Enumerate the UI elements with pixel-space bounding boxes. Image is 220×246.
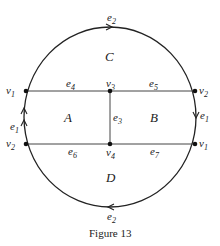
label-v2-left: v2 (6, 137, 15, 152)
vertex-v2-left (24, 142, 29, 147)
label-v4: v4 (106, 146, 115, 161)
label-e6: e6 (68, 145, 77, 160)
face-label-C: C (105, 49, 114, 64)
face-label-B: B (150, 110, 158, 125)
label-v2-right: v2 (199, 84, 208, 99)
label-e1-right: e1 (200, 109, 209, 124)
figure-caption: Figure 13 (89, 227, 132, 239)
label-e2-top: e2 (107, 11, 116, 26)
face-label-D: D (105, 170, 116, 185)
label-e1-left: e1 (10, 120, 19, 135)
label-e4: e4 (66, 77, 75, 92)
label-v1-right: v1 (199, 137, 208, 152)
label-e7: e7 (150, 145, 160, 160)
label-e5: e5 (149, 77, 158, 92)
label-e3: e3 (113, 111, 122, 126)
face-label-A: A (63, 110, 72, 125)
label-v3: v3 (106, 77, 115, 92)
label-e2-bottom: e2 (107, 210, 116, 225)
vertex-v1-right (193, 142, 198, 147)
figure-13-diagram: e2 e2 e1 e1 e3 e4 e5 e6 e7 v1 v2 v3 v2 v… (0, 0, 220, 246)
vertex-v1-left (24, 89, 29, 94)
label-v1-left: v1 (6, 84, 15, 99)
vertex-v2-right (193, 89, 198, 94)
